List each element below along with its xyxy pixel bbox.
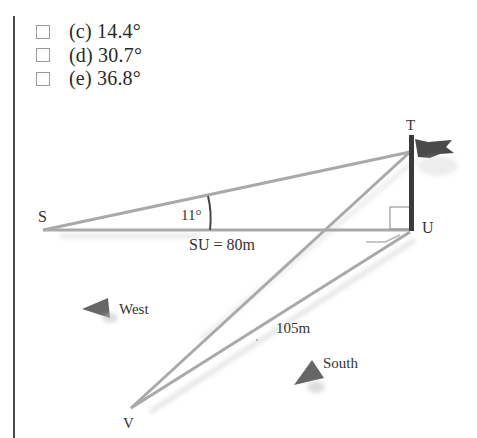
west-arrow-shadow — [102, 313, 118, 323]
label-S: S — [38, 208, 47, 225]
angle-arc-11 — [208, 196, 211, 230]
flag-shadow — [418, 156, 458, 176]
label-U: U — [422, 219, 434, 236]
south-arrow-shadow — [307, 381, 325, 393]
right-angle-marker — [390, 207, 410, 229]
triangle-diagram: S T U V 11° SU = 80m 105m West South — [0, 0, 477, 438]
stray-dot — [256, 339, 258, 341]
line-VU — [131, 232, 410, 408]
west-label: West — [119, 301, 149, 317]
angle-label: 11° — [181, 207, 201, 223]
south-arrow-icon — [294, 360, 324, 385]
label-T: T — [406, 117, 415, 133]
su-length-label: SU = 80m — [189, 236, 255, 253]
label-V: V — [123, 415, 134, 431]
flag-pole — [409, 135, 414, 231]
vu-length-label: 105m — [276, 320, 311, 336]
line-VT — [131, 152, 410, 408]
flag-icon — [415, 139, 454, 158]
south-label: South — [323, 355, 359, 371]
line-ST — [43, 152, 410, 230]
